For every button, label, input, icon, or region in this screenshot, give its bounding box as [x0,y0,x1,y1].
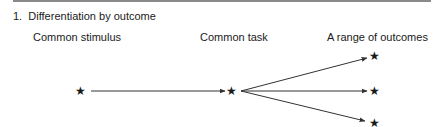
arrow-task-to-outcome-3 [241,91,365,121]
outcome-star-icon-2: ★ [369,85,379,97]
arrow-task-to-outcome-1 [241,58,367,91]
outcome-star-icon-3: ★ [369,117,379,127]
stimulus-star-icon: ★ [75,85,85,97]
outcome-star-icon-1: ★ [369,50,379,62]
task-star-icon: ★ [226,85,236,97]
flow-arrows [0,0,437,127]
